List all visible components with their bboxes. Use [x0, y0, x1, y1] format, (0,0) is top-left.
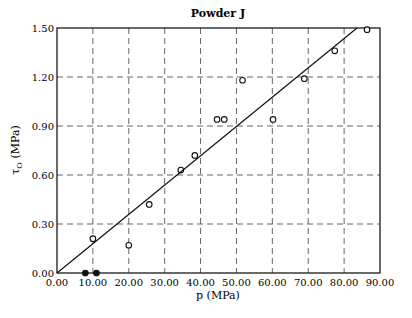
- chart-title: Powder J: [191, 7, 245, 20]
- data-point-open: [146, 202, 152, 208]
- x-tick-label: 80.00: [330, 277, 359, 288]
- data-point-open: [240, 77, 246, 83]
- data-point-open: [364, 27, 370, 33]
- data-point-open: [192, 153, 198, 159]
- y-tick-label: 0.90: [32, 121, 54, 132]
- data-point-filled: [83, 270, 89, 276]
- data-point-open: [270, 117, 276, 123]
- x-tick-label: 70.00: [294, 277, 323, 288]
- data-point-open: [301, 76, 307, 82]
- y-tick-label: 1.50: [32, 23, 54, 34]
- x-tick-label: 50.00: [222, 277, 251, 288]
- y-tick-label: 0.30: [32, 219, 54, 230]
- x-tick-label: 20.00: [114, 277, 143, 288]
- x-tick-label: 40.00: [186, 277, 215, 288]
- x-axis-ticks: 0.0010.0020.0030.0040.0050.0060.0070.008…: [46, 277, 394, 288]
- data-point-open: [126, 242, 132, 248]
- plot-frame: [57, 28, 380, 273]
- x-tick-label: 60.00: [258, 277, 287, 288]
- x-tick-label: 30.00: [150, 277, 179, 288]
- data-point-open: [221, 117, 227, 123]
- fit-line: [57, 28, 357, 273]
- y-axis-label: τO (MPa): [9, 125, 24, 174]
- data-series: [57, 27, 370, 276]
- y-axis-label-unit: (MPa): [9, 125, 22, 162]
- x-axis-label: p (MPa): [196, 289, 240, 302]
- x-tick-label: 0.00: [46, 277, 68, 288]
- y-axis-ticks: 0.000.300.600.901.201.50: [32, 23, 54, 279]
- data-point-open: [332, 48, 338, 54]
- data-point-filled: [94, 270, 100, 276]
- grid-lines: [57, 28, 380, 273]
- chart-canvas: Powder J 0.000.300.600.901.201.50 0.0010…: [0, 0, 412, 318]
- data-point-open: [90, 236, 96, 242]
- x-tick-label: 10.00: [79, 277, 108, 288]
- data-point-open: [214, 117, 220, 123]
- y-tick-label: 1.20: [32, 72, 54, 83]
- x-tick-label: 90.00: [366, 277, 395, 288]
- y-tick-label: 0.60: [32, 170, 54, 181]
